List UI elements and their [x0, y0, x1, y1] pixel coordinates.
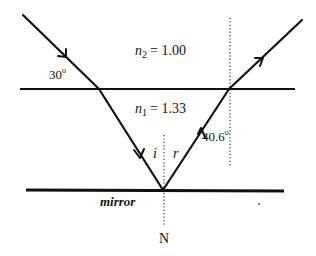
mirror-label: mirror — [100, 194, 136, 209]
normal-label: N — [159, 231, 169, 246]
ray-diagram: n2= 1.00 n1= 1.33 30o 40.6o i r mirror N — [0, 0, 316, 256]
stray-dot — [258, 203, 260, 205]
reflection-angle-label: r — [173, 146, 179, 161]
lower-medium-label: n1= 1.33 — [135, 101, 186, 118]
exit-ray — [229, 20, 302, 89]
upper-medium-label: n2= 1.00 — [135, 43, 186, 60]
incident-angle-label: 30o — [49, 66, 66, 82]
incidence-angle-label: i — [153, 146, 157, 161]
exit-angle-label: 40.6o — [202, 128, 229, 144]
mirror-line — [26, 190, 284, 191]
